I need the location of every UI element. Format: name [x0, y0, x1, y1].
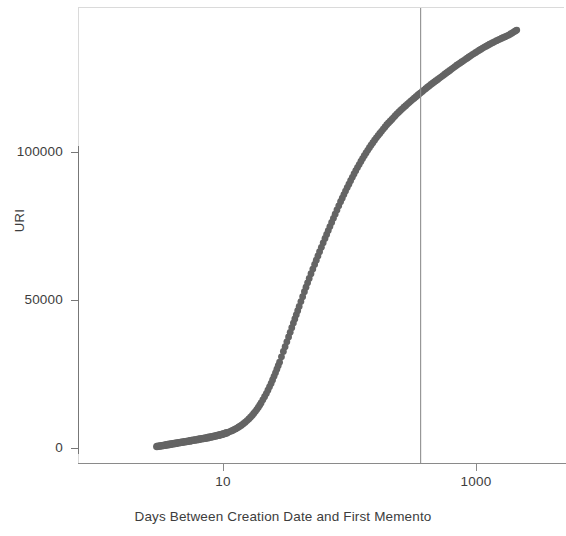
plot-data-layer [0, 0, 566, 536]
scatter-series [153, 27, 520, 451]
chart-figure: 100000 50000 0 10 1000 URI Days Between … [0, 0, 566, 536]
